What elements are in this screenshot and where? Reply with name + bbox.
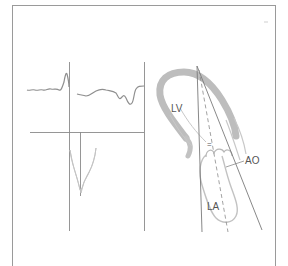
label-lv: LV bbox=[171, 103, 183, 114]
waveform-trace bbox=[27, 73, 144, 104]
valve-leaflets bbox=[206, 149, 232, 157]
label-la: LA bbox=[207, 201, 220, 212]
label-marker: = bbox=[207, 140, 212, 149]
label-ao: AO bbox=[245, 155, 260, 166]
doppler-envelope bbox=[70, 148, 96, 193]
doppler-panel-lines bbox=[30, 62, 145, 231]
echo-diagram: LV AO LA = bbox=[0, 0, 288, 266]
